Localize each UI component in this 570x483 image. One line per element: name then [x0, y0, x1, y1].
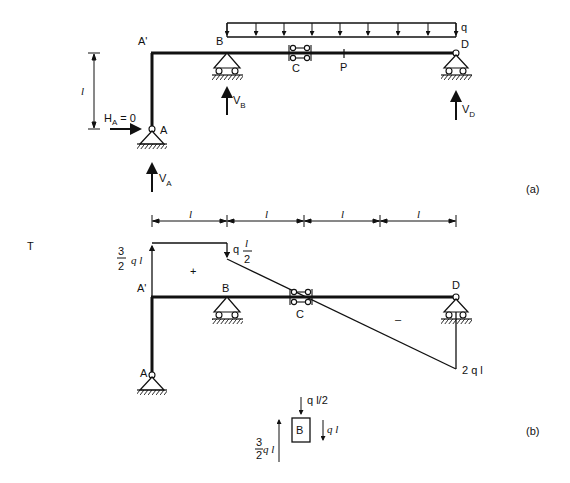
diagram-title-t: T	[27, 240, 34, 252]
fbd-top-load: q l/2	[307, 394, 328, 406]
roller-support-b-a	[212, 53, 243, 80]
span-dimensions	[152, 215, 456, 227]
roller-support-b-b	[212, 297, 243, 324]
span-4-label: l	[417, 208, 420, 220]
svg-text:2: 2	[118, 260, 124, 272]
svg-text:3: 3	[256, 436, 262, 448]
node-a-prime-label-b: A'	[137, 282, 146, 294]
shear-step-value: q l 2	[233, 237, 252, 265]
node-b-label-b: B	[222, 282, 229, 294]
node-a-label: A	[160, 124, 168, 136]
svg-text:q l: q l	[131, 254, 142, 266]
node-c-label-b: C	[296, 308, 304, 320]
node-d-label: D	[461, 38, 469, 50]
load-q-label: q	[461, 21, 467, 33]
distributed-load: q	[227, 21, 467, 37]
shear-diagram-figure: q A' B D C P	[0, 0, 570, 483]
fbd-node-label: B	[296, 424, 303, 436]
span-1-label: l	[189, 208, 192, 220]
shear-left-value: 3 2 q l	[117, 245, 142, 272]
positive-sign: +	[190, 265, 196, 277]
reaction-vb: VB	[227, 88, 246, 115]
svg-text:VB: VB	[233, 94, 246, 110]
svg-text:VD: VD	[462, 103, 475, 119]
part-a-structure: q A' B D C P	[81, 21, 539, 195]
shear-curve	[152, 243, 456, 369]
span-3-label: l	[341, 208, 344, 220]
span-2-label: l	[265, 208, 268, 220]
svg-text:q l: q l	[263, 443, 274, 455]
fbd-right-force: q l	[327, 423, 338, 435]
svg-text:HA = 0: HA = 0	[104, 112, 136, 127]
svg-text:q: q	[233, 243, 239, 255]
fbd-left-force: 3 2 q l	[255, 436, 274, 461]
reaction-ha: HA = 0	[104, 112, 140, 129]
negative-sign: –	[395, 313, 402, 325]
svg-text:l: l	[245, 237, 248, 249]
svg-text:VA: VA	[159, 172, 172, 188]
node-a-label-b: A	[140, 367, 148, 379]
height-l-label: l	[81, 85, 84, 97]
node-c-label: C	[292, 62, 300, 74]
svg-text:2: 2	[256, 449, 262, 461]
frame-members-a	[151, 53, 456, 126]
node-d-label-b: D	[452, 279, 460, 291]
shear-right-value: 2 q l	[462, 364, 483, 376]
point-p-label: P	[340, 61, 347, 73]
part-a-label: (a)	[526, 183, 539, 195]
height-dimension	[88, 53, 100, 129]
svg-text:2: 2	[244, 253, 250, 265]
svg-text:3: 3	[118, 245, 124, 257]
part-b-label: (b)	[526, 425, 539, 437]
reaction-va: VA	[152, 164, 172, 192]
reaction-vd: VD	[456, 92, 475, 120]
part-b-shear-diagram: T l l l l + – 3	[27, 208, 539, 462]
free-body-node-b: B q l/2 q l 3 2 q l	[255, 394, 338, 462]
node-b-label: B	[216, 35, 223, 47]
node-a-prime-label: A'	[138, 35, 147, 47]
